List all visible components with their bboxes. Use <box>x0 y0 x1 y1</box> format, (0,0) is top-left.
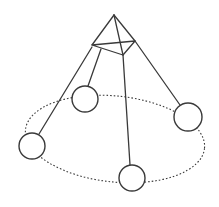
node-right <box>174 103 202 131</box>
node-left <box>19 133 45 159</box>
node-back <box>72 86 98 112</box>
strings-layer <box>39 41 180 165</box>
pyramid-base <box>92 41 135 55</box>
string-right <box>135 41 180 105</box>
string-front <box>123 55 130 165</box>
pyramid-edge-left <box>92 15 114 45</box>
diagram-canvas <box>0 0 219 207</box>
nodes-layer <box>19 86 202 191</box>
orbit-ellipse <box>21 87 209 191</box>
cone-pendulum-diagram <box>0 0 219 207</box>
string-back <box>88 49 101 86</box>
orbit-ellipse-layer <box>21 87 209 191</box>
pyramid-apex <box>92 15 135 55</box>
node-front <box>119 165 145 191</box>
